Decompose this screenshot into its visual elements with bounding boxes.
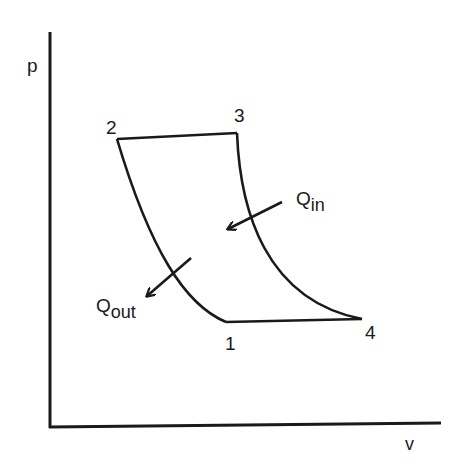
point-label-1: 1 <box>225 333 236 354</box>
y-axis-label: p <box>27 55 38 76</box>
point-label-3: 3 <box>234 105 245 126</box>
process-3-4 <box>237 133 362 319</box>
heat-out-label: Qout <box>96 295 136 322</box>
process-2-3 <box>117 133 237 139</box>
process-1-2 <box>117 139 226 322</box>
pv-diagram: p v 2 3 1 4 Qin Qout <box>0 0 465 472</box>
heat-in-label: Qin <box>296 188 325 215</box>
point-label-4: 4 <box>365 322 376 343</box>
x-axis-label: v <box>405 434 414 454</box>
process-4-1 <box>226 319 362 322</box>
x-axis <box>49 423 441 427</box>
point-label-2: 2 <box>106 117 117 138</box>
